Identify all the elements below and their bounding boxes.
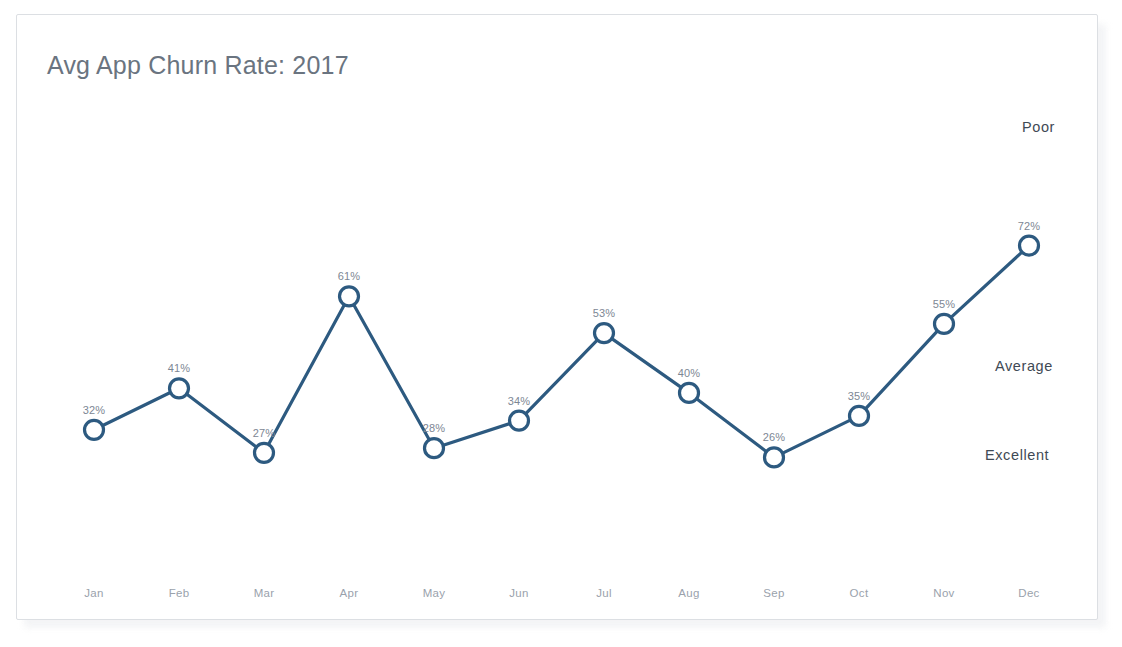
data-point-marker[interactable] [680,383,699,402]
data-point-value-label: 41% [168,362,191,374]
data-point-marker[interactable] [595,324,614,343]
zone-label-excellent: Excellent [985,447,1049,463]
data-point-marker[interactable] [765,448,784,467]
data-point-marker[interactable] [935,314,954,333]
data-point-value-label: 32% [83,404,106,416]
x-axis-label-feb: Feb [169,587,190,599]
data-point-marker[interactable] [170,379,189,398]
data-point-value-label: 26% [763,431,786,443]
x-axis-label-jul: Jul [596,587,612,599]
series-line [94,246,1029,458]
data-point-value-label: 35% [848,390,871,402]
x-axis-label-jun: Jun [509,587,528,599]
x-axis-label-apr: Apr [340,587,359,599]
line-chart-plot: 32%Jan41%Feb27%Mar61%Apr28%May34%Jun53%J… [17,15,1099,621]
data-point-value-label: 55% [933,298,956,310]
data-point-marker[interactable] [85,420,104,439]
data-point-value-label: 27% [253,427,276,439]
data-point-marker[interactable] [425,439,444,458]
x-axis-label-oct: Oct [850,587,869,599]
data-point-marker[interactable] [510,411,529,430]
x-axis-label-aug: Aug [678,587,699,599]
zone-label-poor: Poor [1022,119,1055,135]
zone-label-average: Average [995,358,1053,374]
x-axis-label-dec: Dec [1018,587,1039,599]
data-point-marker[interactable] [1020,236,1039,255]
screenshot-root: Avg App Churn Rate: 2017 32%Jan41%Feb27%… [0,0,1122,647]
x-axis-label-may: May [423,587,446,599]
churn-rate-line-series [17,15,1099,621]
data-point-value-label: 28% [423,422,446,434]
data-point-marker[interactable] [850,406,869,425]
x-axis-label-nov: Nov [933,587,954,599]
data-point-value-label: 40% [678,367,701,379]
data-point-value-label: 61% [338,270,361,282]
x-axis-label-sep: Sep [763,587,784,599]
x-axis-label-mar: Mar [254,587,275,599]
chart-card: Avg App Churn Rate: 2017 32%Jan41%Feb27%… [16,14,1098,620]
data-point-marker[interactable] [255,443,274,462]
data-point-marker[interactable] [340,287,359,306]
data-point-value-label: 53% [593,307,616,319]
data-point-value-label: 34% [508,395,531,407]
x-axis-label-jan: Jan [84,587,103,599]
data-point-value-label: 72% [1018,220,1041,232]
